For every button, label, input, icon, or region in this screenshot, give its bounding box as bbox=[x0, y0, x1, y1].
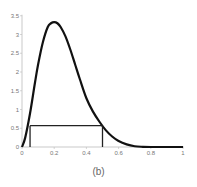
x-tick-label: 1 bbox=[181, 150, 185, 156]
y-axis-ticks: 00.511.522.533.5 bbox=[11, 13, 22, 150]
x-tick-label: 0.2 bbox=[50, 150, 59, 156]
x-tick-label: 0.6 bbox=[114, 150, 123, 156]
y-tick-label: 2.5 bbox=[11, 50, 20, 56]
y-tick-label: 0.5 bbox=[11, 125, 20, 131]
x-tick-label: 0.4 bbox=[82, 150, 91, 156]
y-tick-label: 1.5 bbox=[11, 88, 20, 94]
y-tick-label: 0 bbox=[16, 144, 20, 150]
x-axis-ticks: 00.20.40.60.81 bbox=[20, 147, 185, 156]
density-chart: 00.511.522.533.5 00.20.40.60.81 bbox=[0, 0, 197, 187]
y-tick-label: 1 bbox=[16, 107, 20, 113]
figure-caption: (b) bbox=[0, 166, 197, 177]
interval-annotation bbox=[30, 126, 102, 147]
y-tick-label: 3 bbox=[16, 32, 20, 38]
y-tick-label: 2 bbox=[16, 69, 20, 75]
y-tick-label: 3.5 bbox=[11, 13, 20, 19]
x-tick-label: 0.8 bbox=[147, 150, 156, 156]
x-tick-label: 0 bbox=[20, 150, 24, 156]
